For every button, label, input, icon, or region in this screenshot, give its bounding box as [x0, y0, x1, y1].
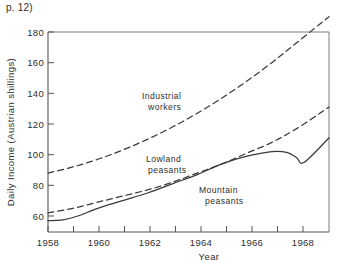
annotation-lowland-peasants-line2: peasants [148, 165, 186, 175]
series-annotations: Industrial workers Lowland peasants Moun… [142, 91, 243, 206]
x-tick-label: 1966 [241, 237, 263, 248]
y-axis-title: Daily Income (Austrian shillings) [5, 58, 16, 206]
y-axis-tick-labels: 180 160 140 120 100 80 60 [27, 27, 44, 222]
y-tick-label: 100 [27, 149, 44, 160]
annotation-mountain-peasants-line2: peasants [205, 196, 243, 206]
x-tick-label: 1968 [292, 237, 314, 248]
y-tick-label: 160 [27, 57, 44, 68]
y-tick-label: 120 [27, 119, 44, 130]
chart-series-group [48, 17, 329, 221]
x-tick-label: 1958 [37, 237, 59, 248]
x-axis-ticks [48, 226, 303, 232]
annotation-lowland-peasants-line1: Lowland [146, 154, 181, 164]
y-axis-ticks [48, 32, 54, 216]
x-tick-label: 1960 [88, 237, 110, 248]
annotation-industrial-workers-line1: Industrial [142, 91, 181, 101]
chart-figure: p. 12) 180 160 140 120 100 80 60 [0, 0, 342, 263]
y-tick-label: 80 [33, 180, 44, 191]
series-line-industrial-workers [48, 17, 329, 173]
x-axis-tick-labels: 1958 1960 1962 1964 1966 1968 [37, 237, 314, 248]
y-tick-label: 140 [27, 88, 44, 99]
x-axis-title: Year [199, 251, 220, 262]
annotation-industrial-workers-line2: workers [147, 102, 181, 112]
annotation-mountain-peasants-line1: Mountain [199, 185, 238, 195]
x-tick-label: 1962 [139, 237, 161, 248]
chart-frame [48, 32, 329, 232]
series-line-mountain-peasants [48, 138, 329, 221]
y-tick-label: 180 [27, 27, 44, 38]
x-tick-label: 1964 [190, 237, 212, 248]
series-line-lowland-peasants [48, 107, 329, 213]
y-tick-label: 60 [33, 211, 44, 222]
line-chart-plot: 180 160 140 120 100 80 60 1958 1960 1 [0, 0, 342, 263]
